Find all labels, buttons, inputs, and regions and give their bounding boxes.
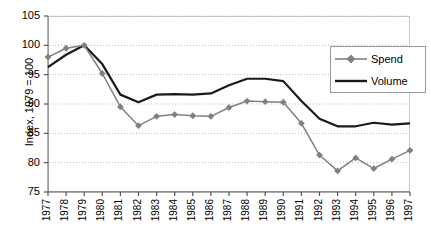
data-point-marker [226, 104, 233, 111]
legend: Spend Volume [330, 46, 426, 93]
data-point-marker [407, 147, 414, 154]
x-axis-ticks [48, 192, 410, 196]
data-point-marker [153, 113, 160, 120]
legend-key-spend-icon [331, 52, 371, 66]
data-point-marker [389, 156, 396, 163]
data-point-marker [63, 45, 70, 52]
chart-canvas [0, 0, 431, 236]
data-point-marker [244, 98, 251, 105]
data-point-marker [370, 165, 377, 172]
legend-key-volume-icon [331, 74, 371, 88]
data-point-marker [171, 111, 178, 118]
data-point-marker [189, 112, 196, 119]
data-point-marker [45, 54, 52, 61]
line-chart: Index, 1979 = 100 7580859095100105 19771… [0, 0, 431, 236]
legend-item-spend: Spend [331, 48, 427, 70]
legend-label-spend: Spend [371, 53, 403, 65]
legend-item-volume: Volume [331, 70, 427, 92]
data-point-marker [208, 113, 215, 120]
legend-label-volume: Volume [371, 75, 408, 87]
